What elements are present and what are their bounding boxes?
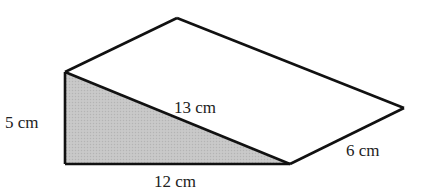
label-height: 5 cm	[5, 113, 39, 132]
prism-diagram: 5 cm 13 cm 12 cm 6 cm	[0, 0, 428, 196]
label-hypotenuse: 13 cm	[174, 98, 216, 117]
label-depth: 6 cm	[346, 141, 380, 160]
label-base: 12 cm	[154, 172, 196, 191]
